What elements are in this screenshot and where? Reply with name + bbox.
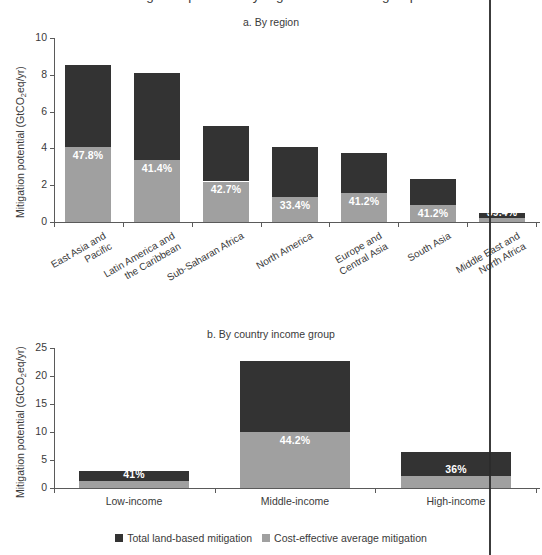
bar-value-label: 39.4% [479,206,525,218]
panel-b-x-tick-mark [215,489,216,493]
panel-b-x-axis-line [54,488,540,489]
panel-a-y-tick-mark [50,75,54,76]
panel-a-x-tick-mark [261,223,262,227]
bar-stack[interactable]: 47.8% [65,65,111,222]
panel-b-y-tick-mark [50,348,54,349]
panel-b-y-tick-label: 25 [14,341,47,353]
scan-artifact-vertical-line [489,0,491,555]
bar-value-label: 42.7% [203,183,249,195]
panel-a-y-tick-mark [50,148,54,149]
panel-a-x-tick-mark [398,223,399,227]
panel-b-y-tick-label: 20 [14,369,47,381]
panel-a-y-tick-mark [50,112,54,113]
bar-stack[interactable]: 41.2% [410,179,456,222]
panel-b-y-tick-label: 10 [14,425,47,437]
panel-b-y-tick-mark [50,432,54,433]
panel-a-title: a. By region [0,16,542,28]
bar-stack[interactable]: 39.4% [479,213,525,222]
bar-stack[interactable]: 36% [401,452,511,488]
panel-by-region: a. By region Mitigation potential (GtCO2… [0,0,542,300]
bar-stack[interactable]: 44.2% [240,361,350,488]
panel-b-y-tick-mark [50,460,54,461]
bar-value-label: 47.8% [65,149,111,161]
legend-item-total[interactable]: Total land-based mitigation [115,532,252,544]
bar-stack[interactable]: 41% [79,471,189,488]
x-axis-category-label: High-income [386,495,526,507]
bar-stack[interactable]: 41.4% [134,73,180,222]
bar-value-label: 41.2% [410,207,456,219]
panel-a-x-tick-mark [329,223,330,227]
bar-segment-total-land-based[interactable] [410,179,456,205]
panel-a-y-tick-label: 8 [14,68,47,80]
x-axis-category-label: Low-income [64,495,204,507]
panel-b-x-tick-mark [375,489,376,493]
chart-legend: Total land-based mitigationCost-effectiv… [0,532,542,544]
panel-a-y-tick-label: 6 [14,105,47,117]
panel-a-x-tick-mark [192,223,193,227]
panel-a-y-tick-label: 0 [14,215,47,227]
bar-stack[interactable]: 41.2% [341,153,387,222]
panel-b-y-tick-label: 15 [14,397,47,409]
panel-b-x-tick-mark [54,489,55,493]
bar-value-label: 36% [401,463,511,475]
bar-segment-total-land-based[interactable] [134,73,180,160]
bar-segment-total-land-based[interactable] [240,361,350,432]
panel-a-y-tick-mark [50,185,54,186]
bar-segment-total-land-based[interactable] [341,153,387,193]
panel-b-y-tick-label: 0 [14,481,47,493]
bar-value-label: 41.2% [341,195,387,207]
panel-a-y-tick-mark [50,38,54,39]
bar-segment-cost-effective[interactable] [401,476,511,488]
x-axis-category-label: Middle-income [225,495,365,507]
bar-stack[interactable]: 42.7% [203,126,249,222]
panel-b-y-tick-mark [50,404,54,405]
panel-a-x-tick-mark [467,223,468,227]
bar-segment-total-land-based[interactable] [272,147,318,197]
panel-b-y-tick-mark [50,376,54,377]
panel-a-y-tick-label: 10 [14,31,47,43]
panel-a-x-tick-mark [54,223,55,227]
panel-a-x-tick-mark [123,223,124,227]
panel-b-x-tick-mark [536,489,537,493]
panel-by-income-group: b. By country income group Mitigation po… [0,300,542,555]
bar-value-label: 44.2% [240,434,350,446]
panel-b-title: b. By country income group [0,328,542,340]
legend-swatch-icon [115,534,123,542]
panel-b-y-tick-label: 5 [14,453,47,465]
legend-swatch-icon [262,534,270,542]
legend-item-cost_effective[interactable]: Cost-effective average mitigation [262,532,427,544]
panel-a-y-axis-line [54,38,55,222]
bar-segment-cost-effective[interactable] [479,218,525,222]
panel-a-y-tick-label: 4 [14,141,47,153]
bar-segment-cost-effective[interactable] [79,481,189,488]
figure-root: Mitigation potential by region and incom… [0,0,542,555]
panel-b-y-axis-line [54,348,55,488]
panel-a-y-tick-label: 2 [14,178,47,190]
bar-value-label: 41.4% [134,162,180,174]
bar-stack[interactable]: 33.4% [272,147,318,222]
panel-a-x-tick-mark [536,223,537,227]
legend-item-label: Total land-based mitigation [127,532,252,544]
bar-segment-total-land-based[interactable] [203,126,249,181]
bar-segment-total-land-based[interactable] [65,65,111,147]
legend-item-label: Cost-effective average mitigation [274,532,427,544]
bar-value-label: 41% [79,468,189,480]
bar-value-label: 33.4% [272,199,318,211]
